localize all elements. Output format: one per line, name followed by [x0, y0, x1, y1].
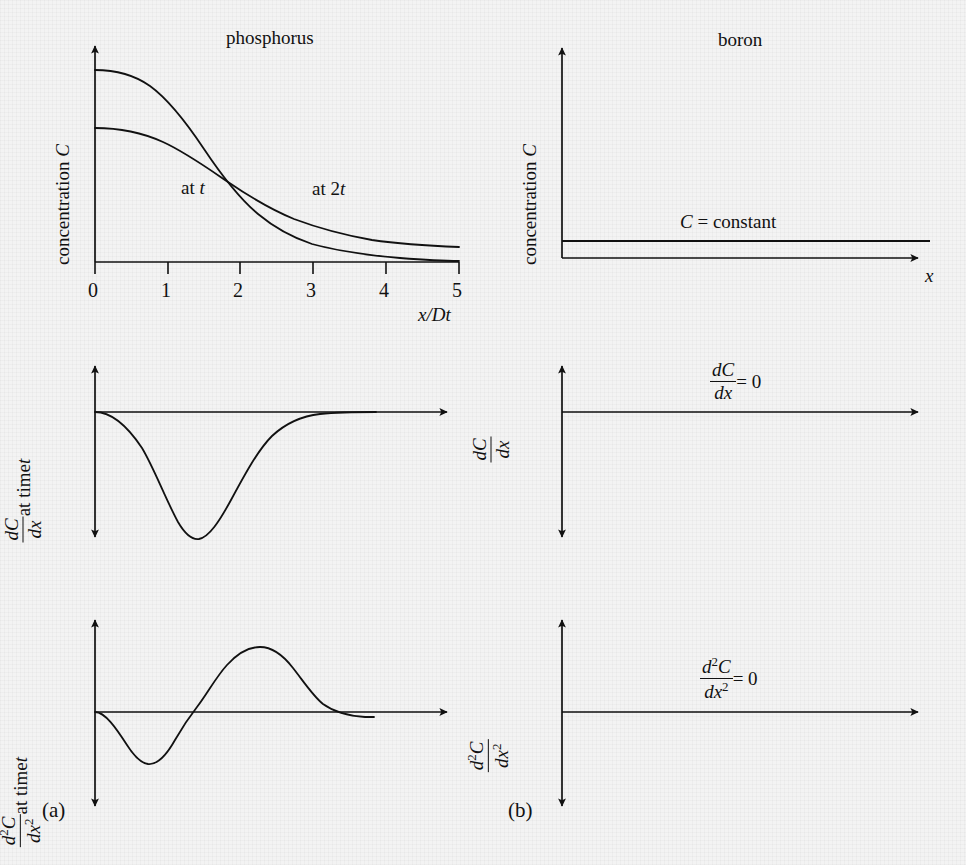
x-axis-label-top-left: x/Dt — [418, 305, 451, 324]
annotation-d2cdx2-zero-den-a: dx — [704, 681, 722, 702]
y-axis-label-bot-right-num-a: d — [466, 761, 487, 771]
x-axis-label-top-right: x — [925, 266, 933, 285]
y-axis-label-mid-left-fraction: dCdx — [2, 516, 45, 542]
panel-mid-left-axes — [95, 366, 447, 539]
part-label-a: (a) — [42, 800, 65, 821]
x-tick-0: 0 — [88, 280, 98, 300]
y-axis-label-top-left-symbol: C — [52, 144, 73, 157]
y-axis-label-bot-left-suffix-symbol: t — [11, 757, 30, 762]
x-tick-4: 4 — [379, 280, 389, 300]
y-axis-label-bot-right-den-exp: 2 — [489, 744, 504, 750]
annotation-c-constant-rhs: = constant — [693, 211, 777, 232]
annotation-d2cdx2-zero-den: dx2 — [700, 679, 733, 702]
y-axis-label-top-left-text: concentration — [52, 157, 73, 265]
y-axis-label-bot-right-num: d2C — [465, 740, 489, 773]
x-tick-5: 5 — [452, 280, 462, 300]
x-axis-ticks-top-left — [95, 262, 459, 274]
annotation-d2cdx2-zero-rhs: = 0 — [733, 669, 758, 688]
y-axis-label-mid-left-num: dC — [2, 516, 24, 542]
y-axis-label-bot-left-num: d2C — [0, 815, 21, 848]
y-axis-label-bot-right-den: dx2 — [489, 740, 512, 773]
panel-title-boron: boron — [718, 30, 762, 49]
panel-bot-right-axes — [562, 620, 918, 806]
y-axis-label-bot-left: d2Cdx2 at time t — [0, 757, 44, 847]
curve-note-at-t-prefix: at — [181, 177, 199, 198]
curve-second-derivative — [95, 647, 374, 764]
panel-top-left-axes — [95, 46, 459, 274]
panel-title-phosphorus: phosphorus — [226, 28, 314, 47]
y-axis-label-top-right-symbol: C — [519, 144, 540, 157]
annotation-d2cdx2-zero-fraction: d2Cdx2 — [700, 655, 733, 702]
y-axis-label-bot-left-den-exp: 2 — [21, 819, 36, 825]
y-axis-label-mid-left-suffix: at time — [13, 464, 32, 516]
y-axis-label-bot-left-den-a: dx — [23, 825, 44, 843]
y-axis-label-top-right-text: concentration — [519, 157, 540, 265]
y-axis-label-top-left: concentration C — [53, 144, 72, 265]
figure-linework — [0, 0, 966, 865]
curve-note-at-t-symbol: t — [199, 177, 204, 198]
y-axis-label-top-right: concentration C — [520, 144, 539, 265]
y-axis-label-bot-left-num-exp: 2 — [0, 829, 11, 835]
annotation-dcdx-zero-rhs: = 0 — [736, 372, 761, 391]
curve-note-at-t: at t — [181, 178, 205, 197]
part-label-b: (b) — [508, 800, 533, 821]
curve-at-t — [95, 70, 459, 261]
y-axis-label-mid-left-suffix-symbol: t — [13, 459, 32, 464]
y-axis-label-bot-left-num-b: C — [0, 817, 19, 830]
y-axis-label-bot-right-fraction: d2Cdx2 — [465, 740, 512, 773]
x-tick-3: 3 — [306, 280, 316, 300]
y-axis-label-bot-right-den-a: dx — [491, 750, 512, 768]
annotation-d2cdx2-zero: d2Cdx2 = 0 — [700, 655, 758, 702]
y-axis-label-bot-left-den: dx2 — [21, 815, 44, 848]
curve-note-at-2t: at 2t — [312, 179, 345, 198]
curve-note-at-2t-prefix: at 2 — [312, 178, 340, 199]
y-axis-label-bot-right-num-b: C — [466, 742, 487, 755]
curve-note-at-2t-symbol: t — [340, 178, 345, 199]
annotation-dcdx-zero-den: dx — [710, 382, 736, 403]
panel-bot-left-axes — [95, 620, 447, 806]
y-axis-label-mid-right-fraction: dCdx — [470, 436, 513, 462]
annotation-d2cdx2-zero-num-b: C — [718, 656, 731, 677]
curve-first-derivative — [95, 412, 376, 539]
y-axis-label-mid-right-num: dC — [470, 436, 492, 462]
annotation-dcdx-zero: dCdx = 0 — [710, 360, 761, 403]
y-axis-label-mid-right: dCdx — [470, 436, 513, 462]
y-axis-label-bot-left-suffix: at time — [11, 762, 30, 814]
annotation-d2cdx2-zero-num-a: d — [702, 656, 712, 677]
y-axis-label-mid-left: dCdx at time t — [2, 459, 45, 543]
y-axis-label-mid-left-den: dx — [23, 516, 44, 542]
annotation-d2cdx2-zero-num: d2C — [700, 655, 733, 679]
annotation-c-constant-lhs: C — [680, 211, 693, 232]
annotation-d2cdx2-zero-den-exp: 2 — [722, 679, 728, 694]
y-axis-label-bot-right: d2Cdx2 — [465, 740, 512, 773]
x-tick-2: 2 — [233, 280, 243, 300]
x-tick-1: 1 — [161, 280, 171, 300]
annotation-c-constant: C = constant — [680, 212, 776, 231]
curve-at-2t — [95, 128, 459, 247]
y-axis-label-bot-right-num-exp: 2 — [464, 754, 479, 760]
y-axis-label-bot-left-fraction: d2Cdx2 — [0, 815, 44, 848]
diffusion-profiles-figure: phosphorus concentration C at t at 2t 0 … — [0, 0, 966, 865]
annotation-dcdx-zero-fraction: dCdx — [710, 360, 736, 403]
annotation-dcdx-zero-num: dC — [710, 360, 736, 382]
y-axis-label-bot-left-num-a: d — [0, 836, 19, 846]
y-axis-label-mid-right-den: dx — [491, 436, 512, 462]
